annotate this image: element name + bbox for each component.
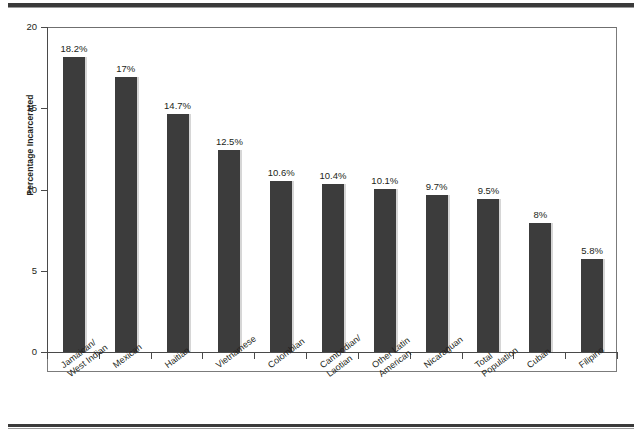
bar-value-label: 10.4% [320,171,347,181]
chart-plot-frame: 18.2%17%14.7%12.5%10.6%10.4%10.1%9.7%9.5… [47,27,617,372]
bar: 10.1% [374,189,398,353]
y-axis-tick-label-text: 5 [13,266,37,276]
bar: 9.5% [477,199,501,353]
bar: 12.5% [218,150,242,353]
y-axis-title: Percentage Incarcerated [25,65,35,225]
bar: 9.7% [426,195,450,353]
x-axis-tick [565,353,566,359]
y-axis-line [47,27,48,353]
bar: 8% [529,223,553,353]
x-axis-tick [306,353,307,359]
bar-value-label: 9.7% [426,182,448,192]
bar-value-label: 17% [116,64,135,74]
bar-value-label: 5.8% [581,246,603,256]
x-axis-tick [617,353,618,359]
x-axis-tick [254,353,255,359]
x-axis-tick [202,353,203,359]
bar-value-label: 10.1% [371,176,398,186]
page-rule-bottom [8,424,634,427]
x-axis-tick [47,353,48,359]
x-axis-tick [151,353,152,359]
bar-value-label: 9.5% [478,186,500,196]
page-rule-bottom-shadow [8,428,634,429]
bar: 17% [115,77,139,353]
bar-value-label: 12.5% [216,137,243,147]
bar-value-label: 10.6% [268,168,295,178]
bar-value-label: 14.7% [164,101,191,111]
page-rule-top-shadow [8,7,634,8]
y-axis-tick-label-text: 20 [13,22,37,32]
bar: 14.7% [167,114,191,353]
plot-area: 18.2%17%14.7%12.5%10.6%10.4%10.1%9.7%9.5… [48,28,618,353]
bar: 10.4% [322,184,346,353]
bar: 18.2% [63,57,87,353]
x-axis-tick [462,353,463,359]
bar: 5.8% [581,259,605,353]
bar-value-label: 18.2% [60,44,87,54]
bar-value-label: 8% [533,210,547,220]
bar: 10.6% [270,181,294,353]
y-axis-tick-label-text: 0 [13,347,37,357]
